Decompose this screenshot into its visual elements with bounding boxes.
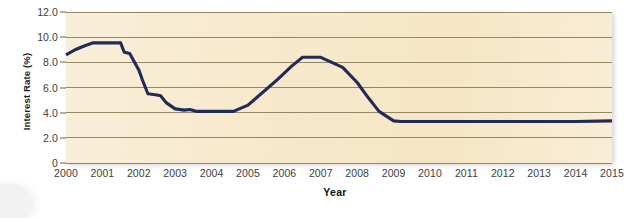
y-tick-label: 8.0 bbox=[12, 56, 58, 68]
y-tick-label: 6.0 bbox=[12, 82, 58, 94]
x-axis-title-text: Year bbox=[293, 186, 346, 198]
x-tick-label: 2011 bbox=[446, 167, 486, 179]
plot-area bbox=[66, 12, 612, 163]
x-tick-label: 2000 bbox=[46, 167, 86, 179]
y-tick-label: 12.0 bbox=[12, 6, 58, 18]
chart-figure: Interest Rate (%) 02.04.06.08.010.012.0 … bbox=[0, 0, 640, 218]
x-tick-label: 2003 bbox=[155, 167, 195, 179]
series-line-interest-rate bbox=[66, 12, 612, 163]
x-tick-label: 2009 bbox=[374, 167, 414, 179]
x-tick-label: 2005 bbox=[228, 167, 268, 179]
x-tick-label: 2013 bbox=[519, 167, 559, 179]
x-tick-label: 2014 bbox=[556, 167, 596, 179]
x-axis-title: Year bbox=[0, 186, 640, 198]
x-tick-label: 2007 bbox=[301, 167, 341, 179]
series-path bbox=[66, 43, 612, 122]
x-tick-label: 2015 bbox=[592, 167, 632, 179]
y-tick-label: 4.0 bbox=[12, 107, 58, 119]
x-tick-label: 2012 bbox=[483, 167, 523, 179]
x-tick-label: 2004 bbox=[192, 167, 232, 179]
y-tick-label: 10.0 bbox=[12, 31, 58, 43]
x-tick-label: 2010 bbox=[410, 167, 450, 179]
x-tick-label: 2008 bbox=[337, 167, 377, 179]
y-tick-label: 2.0 bbox=[12, 132, 58, 144]
x-tick-label: 2001 bbox=[82, 167, 122, 179]
x-tick-label: 2002 bbox=[119, 167, 159, 179]
x-tick-label: 2006 bbox=[264, 167, 304, 179]
